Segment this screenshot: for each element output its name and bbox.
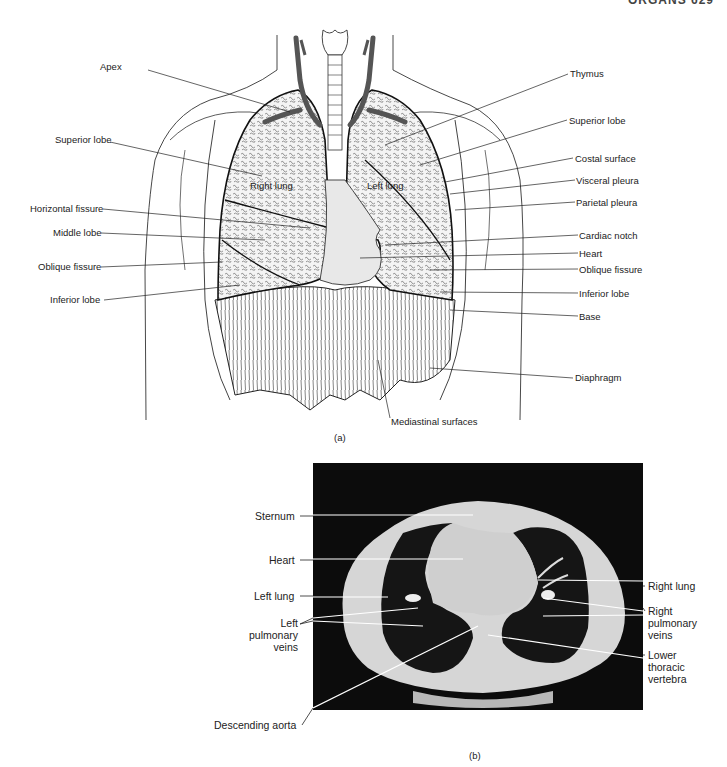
label-horizontal-fissure: Horizontal fissure — [30, 203, 103, 214]
ct-label-left-pulmonary-veins: Left pulmonary veins — [240, 617, 298, 653]
right-lung-inner-label: Right lung — [250, 180, 293, 191]
label-parietal-pleura: Parietal pleura — [576, 197, 637, 208]
ct-scan-image — [313, 463, 643, 710]
label-oblique-fissure-left: Oblique fissure — [38, 261, 101, 272]
label-cardiac-notch: Cardiac notch — [579, 230, 638, 241]
ct-label-left-lung: Left lung — [254, 590, 294, 602]
ct-label-right-lung: Right lung — [648, 580, 695, 592]
label-inferior-lobe-left: Inferior lobe — [50, 294, 100, 305]
label-oblique-fissure-right: Oblique fissure — [579, 264, 642, 275]
label-visceral-pleura: Visceral pleura — [576, 175, 639, 186]
caption-b: (b) — [469, 750, 481, 761]
label-apex: Apex — [100, 61, 122, 72]
label-costal-surface: Costal surface — [575, 153, 636, 164]
label-inferior-lobe-right: Inferior lobe — [579, 288, 629, 299]
label-thymus: Thymus — [570, 68, 604, 79]
label-base: Base — [579, 311, 601, 322]
label-middle-lobe: Middle lobe — [53, 227, 102, 238]
label-diaphragm: Diaphragm — [575, 372, 621, 383]
ct-label-right-pulmonary-veins: Right pulmonary veins — [648, 605, 697, 641]
ct-label-lower-thoracic-vertebra: Lower thoracic vertebra — [648, 649, 687, 685]
label-heart: Heart — [579, 248, 602, 259]
left-lung-inner-label: Left lung — [367, 180, 403, 191]
ct-label-descending-aorta: Descending aorta — [214, 719, 296, 731]
label-mediastinal-surfaces: Mediastinal surfaces — [391, 416, 478, 427]
ct-label-heart: Heart — [269, 554, 295, 566]
label-superior-lobe-right: Superior lobe — [569, 115, 626, 126]
label-superior-lobe-left: Superior lobe — [55, 134, 112, 145]
caption-a: (a) — [334, 432, 346, 443]
ct-label-sternum: Sternum — [255, 510, 295, 522]
